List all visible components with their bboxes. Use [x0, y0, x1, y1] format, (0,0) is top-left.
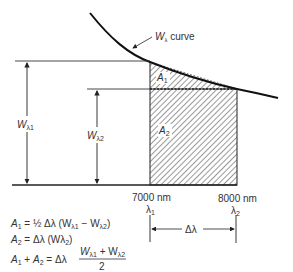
equation-sum: A1 + A2 = Δλ — [10, 254, 67, 266]
equation-a1: A1 = ½ Δλ (Wλ1 − Wλ2) — [10, 218, 110, 230]
curve-label: Wλ curve — [155, 31, 195, 43]
x1-value-label: 7000 nm — [132, 192, 171, 203]
equation-a2: A2 = Δλ (Wλ2) — [10, 234, 72, 246]
x2-value-label: 8000 nm — [218, 193, 257, 204]
energy-curve-diagram: Wλ1 Wλ2 Wλ curve A1 A2 7000 nm 8000 nm λ… — [0, 0, 293, 272]
lambda1-label: λ1 — [146, 204, 155, 216]
delta-lambda-label: Δλ — [185, 224, 197, 235]
equation-sum-denominator: 2 — [99, 261, 105, 272]
lambda2-label: λ2 — [231, 205, 240, 217]
equation-sum-numerator: Wλ1 + Wλ2 — [80, 246, 125, 258]
curve-label-pointer — [133, 37, 152, 48]
